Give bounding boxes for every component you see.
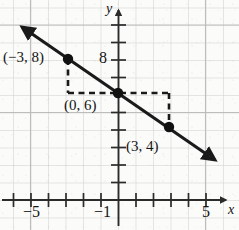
point-label-b: (0, 6) [64,98,97,113]
data-point-c [164,122,174,132]
coordinate-plane-figure: (−3, 8) (0, 6) (3, 4) 8 −5 −1 5 y x [0,0,239,230]
data-point-a [63,54,73,64]
graph-canvas [0,0,239,230]
grid-background [0,0,239,230]
data-point-b [113,88,123,98]
y-axis-label: y [106,2,112,16]
x-tick-label-neg5: −5 [23,204,40,220]
point-label-a: (−3, 8) [3,50,44,65]
y-tick-label-8: 8 [99,50,107,66]
point-label-c: (3, 4) [126,139,159,154]
x-tick-label-5: 5 [202,204,210,220]
x-axis-label: x [228,203,234,217]
x-tick-label-neg1: −1 [94,204,111,220]
